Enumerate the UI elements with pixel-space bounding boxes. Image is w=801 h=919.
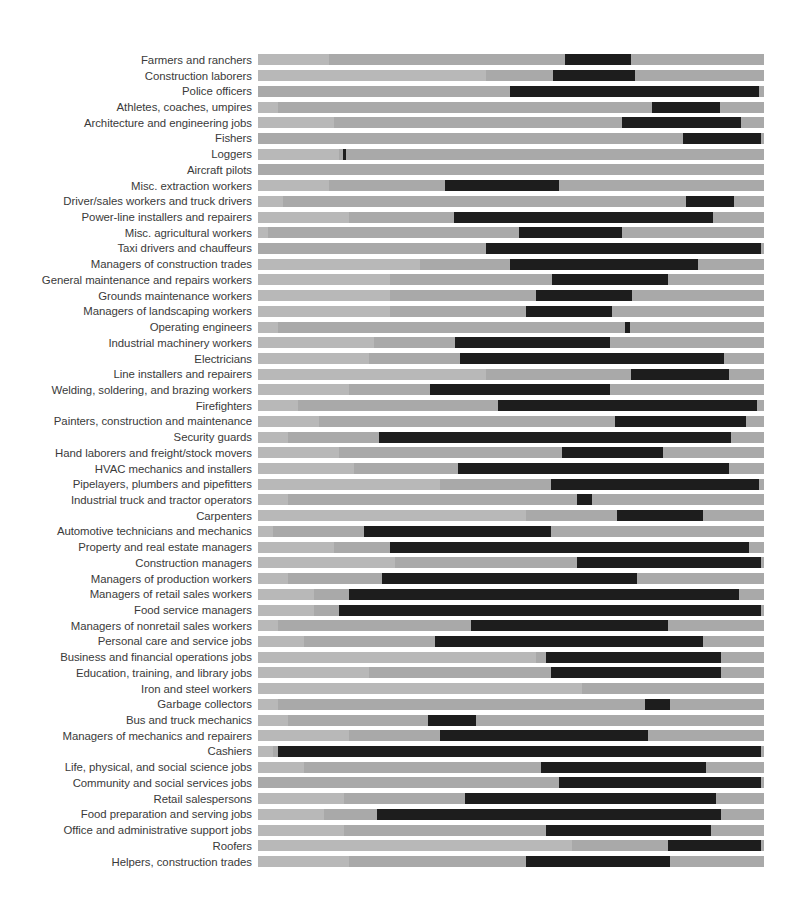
row-track-wrap [258, 479, 764, 490]
row-label: Grounds maintenance workers [0, 290, 252, 302]
row-track-wrap [258, 793, 764, 804]
row-track-wrap [258, 243, 764, 254]
row-value-segment [454, 212, 713, 223]
chart-row: Painters, construction and maintenance [0, 414, 801, 430]
row-track-shade [258, 573, 288, 584]
row-track-wrap [258, 620, 764, 631]
row-value-segment [430, 384, 610, 395]
row-value-segment [526, 856, 670, 867]
row-track-wrap [258, 212, 764, 223]
row-value-segment [465, 793, 715, 804]
row-track-shade [258, 353, 369, 364]
row-value-segment [577, 494, 592, 505]
chart-row: Business and financial operations jobs [0, 649, 801, 665]
chart-row: Life, physical, and social science jobs [0, 759, 801, 775]
row-track-shade [258, 274, 390, 285]
row-label: Automotive technicians and mechanics [0, 525, 252, 537]
chart-row: Cashiers [0, 744, 801, 760]
row-label: Carpenters [0, 510, 252, 522]
chart-row: Industrial truck and tractor operators [0, 492, 801, 508]
row-track-wrap [258, 196, 764, 207]
chart-row: Managers of nonretail sales workers [0, 618, 801, 634]
chart-row: Taxi drivers and chauffeurs [0, 241, 801, 257]
row-track-shade [258, 306, 390, 317]
row-track-shade [258, 259, 420, 270]
row-label: Food preparation and serving jobs [0, 808, 252, 820]
row-track-shade [258, 369, 486, 380]
row-track-shade [258, 447, 339, 458]
row-label: Line installers and repairers [0, 368, 252, 380]
row-label: Helpers, construction trades [0, 856, 252, 868]
row-track-shade [258, 180, 329, 191]
row-track-wrap [258, 494, 764, 505]
row-label: HVAC mechanics and installers [0, 463, 252, 475]
chart-row: Architecture and engineering jobs [0, 115, 801, 131]
chart-row: Power-line installers and repairers [0, 209, 801, 225]
row-value-segment [364, 526, 551, 537]
row-track-wrap [258, 542, 764, 553]
row-label: Misc. agricultural workers [0, 227, 252, 239]
row-label: Managers of production workers [0, 573, 252, 585]
row-track-shade [258, 730, 349, 741]
row-label: Garbage collectors [0, 698, 252, 710]
row-label: Education, training, and library jobs [0, 667, 252, 679]
chart-row: Pipelayers, plumbers and pipefitters [0, 476, 801, 492]
row-track-shade [258, 840, 572, 851]
row-value-segment [435, 636, 703, 647]
row-track-wrap [258, 762, 764, 773]
row-value-segment [486, 243, 762, 254]
row-track-wrap [258, 306, 764, 317]
chart-row: Food preparation and serving jobs [0, 807, 801, 823]
row-label: Farmers and ranchers [0, 54, 252, 66]
row-value-segment [510, 86, 759, 97]
chart-rows: Farmers and ranchersConstruction laborer… [0, 52, 801, 869]
chart-row: Firefighters [0, 398, 801, 414]
row-track-shade [258, 149, 339, 160]
row-track-wrap [258, 463, 764, 474]
chart-row: Helpers, construction trades [0, 854, 801, 870]
row-label: Bus and truck mechanics [0, 714, 252, 726]
row-label: Food service managers [0, 604, 252, 616]
row-value-segment [552, 274, 667, 285]
chart-row: Carpenters [0, 508, 801, 524]
row-track-wrap [258, 636, 764, 647]
chart-row: Hand laborers and freight/stock movers [0, 445, 801, 461]
row-track-wrap [258, 86, 764, 97]
row-track-shade [258, 589, 314, 600]
row-track-shade [258, 699, 278, 710]
row-value-segment [536, 290, 632, 301]
row-track-wrap [258, 652, 764, 663]
row-label: Business and financial operations jobs [0, 651, 252, 663]
row-label: Fishers [0, 132, 252, 144]
chart-row: Farmers and ranchers [0, 52, 801, 68]
chart-row: Garbage collectors [0, 696, 801, 712]
row-label: Loggers [0, 148, 252, 160]
row-track [258, 494, 764, 505]
row-label: Aircraft pilots [0, 164, 252, 176]
row-value-segment [278, 746, 761, 757]
row-value-segment [645, 699, 670, 710]
row-value-segment [541, 762, 705, 773]
row-track-shade [258, 384, 349, 395]
chart-row: Managers of production workers [0, 571, 801, 587]
row-value-segment [471, 620, 668, 631]
row-track-shade [258, 620, 278, 631]
row-track-wrap [258, 149, 764, 160]
row-track-wrap [258, 337, 764, 348]
row-value-segment [546, 652, 721, 663]
row-value-segment [551, 667, 721, 678]
row-track-wrap [258, 447, 764, 458]
row-track-wrap [258, 825, 764, 836]
occupation-range-chart: Farmers and ranchersConstruction laborer… [0, 0, 801, 919]
row-track-wrap [258, 259, 764, 270]
row-value-segment [440, 730, 647, 741]
row-track-shade [258, 667, 369, 678]
chart-row: Misc. agricultural workers [0, 225, 801, 241]
row-track-wrap [258, 573, 764, 584]
chart-row: HVAC mechanics and installers [0, 461, 801, 477]
chart-row: Managers of landscaping workers [0, 304, 801, 320]
row-track [258, 322, 764, 333]
row-label: Managers of nonretail sales workers [0, 620, 252, 632]
chart-row: Aircraft pilots [0, 162, 801, 178]
row-track-wrap [258, 117, 764, 128]
